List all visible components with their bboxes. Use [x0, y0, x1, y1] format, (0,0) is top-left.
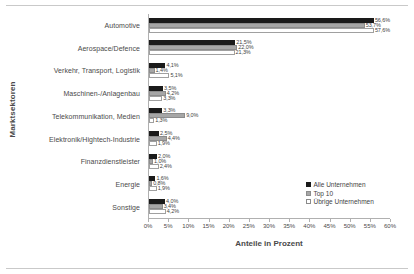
x-tick-label: 35%	[283, 223, 295, 229]
bar-data-label: 3,3%	[163, 96, 175, 101]
x-tick-label: 20%	[223, 223, 235, 229]
bar-group: 3,3%9,0%1,3%	[149, 106, 390, 125]
bar-group: 2,0%1,0%2,4%	[149, 152, 390, 171]
bar-data-label: 21,3%	[236, 50, 251, 55]
x-tick-mark	[390, 219, 391, 222]
legend-item[interactable]: Alle Unternehmen	[306, 181, 374, 188]
category-label: Aerospace/Defence	[10, 39, 144, 58]
x-axis-tick-labels: 0%5%10%15%20%25%30%35%40%45%50%55%60%	[148, 223, 390, 235]
x-tick-mark	[289, 219, 290, 222]
x-axis-title: Anteile in Prozent	[148, 239, 390, 248]
chart-legend: Alle UnternehmenTop 10Übrige Unternehmen	[306, 181, 374, 205]
bar	[149, 209, 166, 214]
bar-data-label: 4,2%	[167, 209, 179, 214]
bar-row: 5,1%	[149, 73, 390, 78]
x-tick-mark	[370, 219, 371, 222]
bar-row: 3,3%	[149, 96, 390, 101]
legend-swatch-icon	[306, 191, 311, 196]
x-tick-mark	[330, 219, 331, 222]
bar-group: 3,5%4,2%3,3%	[149, 84, 390, 103]
legend-item[interactable]: Top 10	[306, 190, 374, 197]
legend-item[interactable]: Übrige Unternehmen	[306, 198, 374, 205]
bar	[149, 141, 157, 146]
x-tick-label: 55%	[364, 223, 376, 229]
category-label: Elektronik/Hightech-Industrie	[10, 130, 144, 149]
x-tick-mark	[249, 219, 250, 222]
bar-data-label: 1,3%	[155, 118, 167, 123]
category-label: Verkehr, Transport, Logistik	[10, 61, 144, 80]
x-tick-mark	[269, 219, 270, 222]
category-label: Automotive	[10, 16, 144, 35]
x-tick-mark	[350, 219, 351, 222]
bar-group: 56,6%53,7%57,6%	[149, 16, 390, 35]
x-tick-mark	[148, 219, 149, 222]
x-tick-label: 15%	[202, 223, 214, 229]
bar	[149, 186, 157, 191]
x-tick-mark	[209, 219, 210, 222]
x-tick-label: 40%	[303, 223, 315, 229]
bar	[149, 28, 374, 33]
x-tick-label: 50%	[344, 223, 356, 229]
y-axis-category-labels: AutomotiveAerospace/DefenceVerkehr, Tran…	[10, 14, 144, 219]
bar-row: 1,3%	[149, 118, 390, 123]
bar	[149, 96, 162, 101]
x-tick-mark	[188, 219, 189, 222]
legend-label: Top 10	[314, 190, 334, 197]
bar-row: 4,2%	[149, 209, 390, 214]
x-tick-label: 30%	[263, 223, 275, 229]
x-tick-mark	[168, 219, 169, 222]
x-tick-label: 45%	[323, 223, 335, 229]
category-label: Energie	[10, 175, 144, 194]
chart-container: Marktsektoren AutomotiveAerospace/Defenc…	[0, 0, 414, 274]
bar-data-label: 1,9%	[158, 141, 170, 146]
x-tick-mark	[309, 219, 310, 222]
x-tick-label: 10%	[182, 223, 194, 229]
bar-row: 2,4%	[149, 164, 390, 169]
x-tick-label: 5%	[164, 223, 173, 229]
category-label: Maschinen-/Anlagenbau	[10, 84, 144, 103]
bar-row: 21,3%	[149, 50, 390, 55]
legend-swatch-icon	[306, 182, 311, 187]
x-tick-label: 60%	[384, 223, 396, 229]
bar-group: 4,1%1,4%5,1%	[149, 61, 390, 80]
bar	[149, 73, 169, 78]
bottom-divider	[6, 268, 408, 269]
category-label: Sonstige	[10, 198, 144, 217]
bar-group: 2,5%4,4%1,9%	[149, 129, 390, 148]
category-label: Telekommunikation, Medien	[10, 107, 144, 126]
bar	[149, 118, 154, 123]
bar-data-label: 57,6%	[375, 28, 390, 33]
bar	[149, 164, 159, 169]
x-tick-label: 0%	[144, 223, 153, 229]
bar-data-label: 5,1%	[170, 73, 182, 78]
bar-group: 21,5%22,0%21,3%	[149, 38, 390, 57]
legend-label: Übrige Unternehmen	[314, 198, 374, 205]
x-tick-mark	[229, 219, 230, 222]
legend-swatch-icon	[306, 199, 311, 204]
bar-row: 57,6%	[149, 28, 390, 33]
legend-label: Alle Unternehmen	[314, 181, 366, 188]
top-divider	[6, 5, 408, 6]
bar-data-label: 2,4%	[160, 164, 172, 169]
x-tick-label: 25%	[243, 223, 255, 229]
bar	[149, 50, 235, 55]
category-label: Finanzdienstleister	[10, 152, 144, 171]
bar-data-label: 1,9%	[158, 186, 170, 191]
bar-row: 1,9%	[149, 141, 390, 146]
